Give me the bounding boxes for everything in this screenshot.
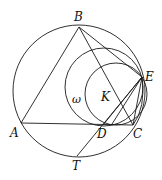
geometry-diagram: B E ω K A D C T [0, 0, 162, 180]
segment-ab [21, 27, 79, 123]
label-d: D [97, 128, 107, 140]
label-k: K [101, 91, 110, 103]
segment-dt [77, 77, 142, 156]
label-c: C [133, 128, 142, 140]
label-e: E [145, 71, 154, 83]
label-omega: ω [72, 94, 81, 106]
label-b: B [74, 11, 83, 23]
circumcircle [13, 25, 145, 157]
label-a: A [10, 127, 19, 139]
diagram-canvas [0, 0, 162, 180]
circle-omega [65, 48, 143, 126]
segment-bc [79, 27, 133, 125]
label-t: T [72, 160, 80, 172]
